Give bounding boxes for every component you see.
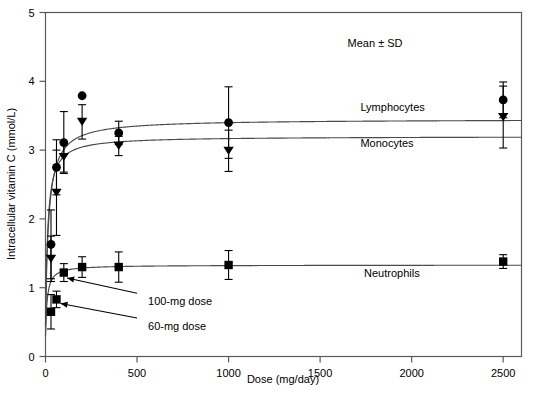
marker-square [499,257,507,265]
x-tick-label: 0 [42,367,48,379]
x-tick-label: 1000 [216,367,240,379]
lymphocytes-label: Lymphocytes [360,101,425,113]
y-tick-label: 5 [28,7,34,19]
y-tick-label: 2 [28,213,34,225]
x-tick-label: 500 [128,367,146,379]
marker-square [52,295,60,303]
mean-sd-note: Mean ± SD [348,37,403,49]
y-tick-label: 1 [28,282,34,294]
x-axis-title: Dose (mg/day) [247,373,319,385]
marker-square [224,261,232,269]
marker-square [78,263,86,271]
chart-figure: 012345 05001000150020002500 Dose (mg/day… [0,0,540,396]
chart-background [0,0,540,396]
y-tick-label: 3 [28,144,34,156]
marker-square [115,263,123,271]
marker-square [47,308,55,316]
y-axis-title: Intracellular vitamin C (mmol/L) [5,108,17,260]
marker-square [60,268,68,276]
dose-60-annotation: 60-mg dose [148,320,206,332]
monocytes-label: Monocytes [360,137,414,149]
marker-circle [224,118,233,127]
dose-100-annotation: 100-mg dose [148,295,212,307]
x-tick-label: 2000 [399,367,423,379]
vitamin-c-dose-response-chart: 012345 05001000150020002500 Dose (mg/day… [0,0,540,396]
y-tick-label: 4 [28,75,34,87]
y-tick-label: 0 [28,351,34,363]
neutrophils-label: Neutrophils [364,267,420,279]
marker-circle [78,91,87,100]
x-tick-label: 2500 [491,367,515,379]
